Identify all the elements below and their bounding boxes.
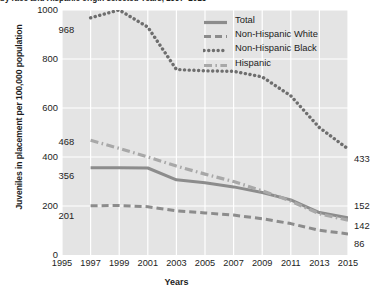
- legend-swatch-icon: [203, 57, 228, 68]
- legend-label: Hispanic: [235, 57, 271, 68]
- legend-label: Total: [235, 14, 255, 25]
- legend-item-non-hispanic-white[interactable]: Non-Hispanic White: [203, 28, 318, 39]
- legend-swatch-icon: [203, 14, 228, 25]
- y-tick-1000: 1000: [18, 4, 58, 15]
- data-label-468: 468: [59, 136, 75, 147]
- y-axis-ticks: 02004006008001000: [14, 0, 58, 265]
- data-label-142: 142: [354, 220, 370, 231]
- data-label-356: 356: [59, 170, 75, 181]
- legend-swatch-icon: [203, 28, 228, 39]
- x-axis-label: Years: [0, 277, 353, 287]
- legend-label: Non-Hispanic Black: [235, 42, 317, 53]
- y-tick-600: 600: [18, 102, 58, 113]
- data-label-152: 152: [354, 200, 370, 211]
- data-label-86: 86: [354, 238, 364, 249]
- legend-swatch-icon: [203, 42, 228, 53]
- y-tick-800: 800: [18, 53, 58, 64]
- data-label-433: 433: [354, 153, 370, 164]
- legend-item-hispanic[interactable]: Hispanic: [203, 57, 318, 68]
- x-tick-2015: 2015: [328, 258, 368, 268]
- data-label-201: 201: [59, 210, 75, 221]
- legend-item-non-hispanic-black[interactable]: Non-Hispanic Black: [203, 42, 318, 53]
- chart-legend: TotalNon-Hispanic WhiteNon-Hispanic Blac…: [203, 14, 318, 68]
- x-axis-ticks: 1995199719992001200320052007200920112013…: [0, 258, 353, 272]
- legend-item-total[interactable]: Total: [203, 14, 318, 25]
- y-tick-200: 200: [18, 200, 58, 211]
- legend-label: Non-Hispanic White: [235, 28, 318, 39]
- y-tick-400: 400: [18, 151, 58, 162]
- data-label-968: 968: [59, 24, 75, 35]
